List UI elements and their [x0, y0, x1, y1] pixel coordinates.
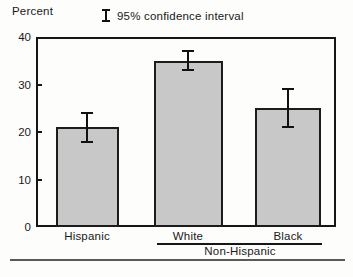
- error-bar: [86, 113, 88, 142]
- x-category-label-hispanic: Hispanic: [42, 230, 132, 242]
- bottom-rule: [10, 259, 345, 261]
- error-bar-cap: [182, 69, 194, 71]
- bar-white: [154, 61, 223, 227]
- error-bar-cap: [81, 141, 93, 143]
- group-label-non-hispanic: Non-Hispanic: [180, 245, 300, 257]
- error-bar-cap: [282, 126, 294, 128]
- x-category-label-black: Black: [243, 230, 333, 242]
- x-category-label-white: White: [143, 230, 233, 242]
- bar-chart-figure: Percent 95% confidence interval 01020304…: [0, 0, 353, 277]
- error-bar: [187, 51, 189, 70]
- error-bar-icon: [101, 8, 111, 23]
- y-axis-title: Percent: [12, 5, 53, 17]
- y-tick-mark: [38, 179, 42, 181]
- y-tick-label: 20: [0, 125, 31, 139]
- error-bar-cap: [182, 50, 194, 52]
- y-tick-mark: [38, 131, 42, 133]
- y-tick-label: 40: [0, 30, 31, 44]
- error-bar-cap: [81, 112, 93, 114]
- legend-label: 95% confidence interval: [117, 10, 244, 22]
- error-bar-cap: [282, 88, 294, 90]
- y-tick-mark: [38, 84, 42, 86]
- y-tick-label: 10: [0, 173, 31, 187]
- y-tick-label: 30: [0, 78, 31, 92]
- error-bar: [287, 89, 289, 127]
- legend: 95% confidence interval: [101, 8, 244, 23]
- y-tick-label: 0: [0, 220, 31, 234]
